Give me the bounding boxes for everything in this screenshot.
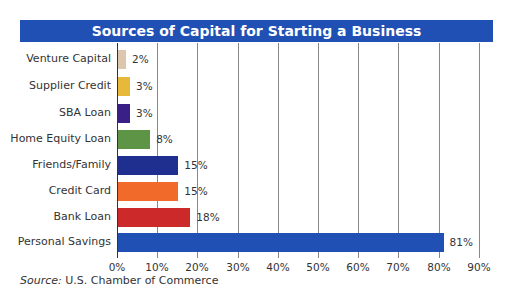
- category-label: Personal Savings: [18, 235, 111, 248]
- bar: [118, 233, 444, 252]
- bar: [118, 182, 178, 201]
- gridline: [278, 43, 279, 258]
- chart-title: Sources of Capital for Starting a Busine…: [20, 20, 493, 42]
- gridline: [358, 43, 359, 258]
- gridline: [479, 43, 480, 258]
- source-note: Source: U.S. Chamber of Commerce: [20, 274, 218, 287]
- bar: [118, 50, 126, 69]
- value-label: 3%: [136, 80, 153, 92]
- value-label: 15%: [184, 159, 207, 171]
- value-label: 3%: [136, 107, 153, 119]
- bar: [118, 104, 130, 123]
- category-label: Credit Card: [49, 184, 111, 197]
- gridline: [197, 43, 198, 258]
- source-text: U.S. Chamber of Commerce: [62, 274, 219, 287]
- category-label: Bank Loan: [53, 210, 111, 223]
- gridline: [439, 43, 440, 258]
- x-tick-label: 70%: [386, 261, 409, 273]
- source-prefix: Source:: [20, 274, 62, 287]
- x-tick-label: 90%: [467, 261, 490, 273]
- value-label: 2%: [132, 53, 149, 65]
- x-tick-label: 10%: [145, 261, 168, 273]
- x-tick-label: 60%: [346, 261, 369, 273]
- x-tick-label: 80%: [427, 261, 450, 273]
- value-label: 81%: [450, 236, 473, 248]
- category-label: Supplier Credit: [29, 79, 111, 92]
- value-label: 15%: [184, 185, 207, 197]
- x-tick-label: 20%: [185, 261, 208, 273]
- bar: [118, 156, 178, 175]
- x-tick-label: 50%: [306, 261, 329, 273]
- bar: [118, 130, 150, 149]
- x-tick-label: 0%: [109, 261, 126, 273]
- bar: [118, 77, 130, 96]
- category-label: Home Equity Loan: [10, 132, 111, 145]
- category-label: SBA Loan: [59, 106, 111, 119]
- bar: [118, 208, 190, 227]
- gridline: [318, 43, 319, 258]
- gridline: [398, 43, 399, 258]
- x-tick-label: 40%: [266, 261, 289, 273]
- gridline: [238, 43, 239, 258]
- category-label: Friends/Family: [32, 158, 111, 171]
- x-tick-label: 30%: [226, 261, 249, 273]
- value-label: 18%: [196, 211, 219, 223]
- category-label: Venture Capital: [26, 52, 111, 65]
- value-label: 8%: [156, 133, 173, 145]
